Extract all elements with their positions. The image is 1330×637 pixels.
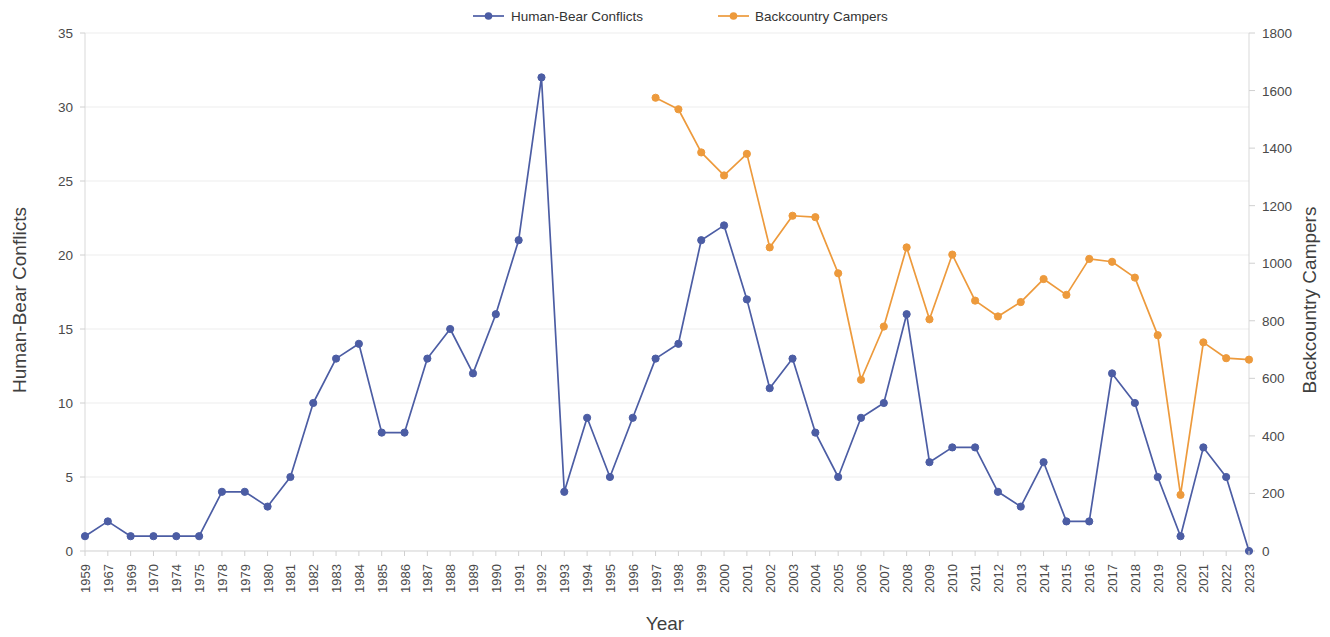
data-point	[310, 399, 317, 406]
x-axis-tick-label: 1981	[283, 564, 298, 593]
data-point	[584, 414, 591, 421]
data-point	[1177, 533, 1184, 540]
data-point	[287, 473, 294, 480]
y-axis-tick-label: 5	[65, 470, 73, 485]
data-point	[835, 270, 842, 277]
data-point	[196, 533, 203, 540]
y-axis-tick-label: 15	[58, 322, 73, 337]
x-axis-title: Year	[646, 613, 685, 634]
x-axis-tick-label: 1998	[671, 564, 686, 593]
data-point	[241, 488, 248, 495]
data-point	[401, 429, 408, 436]
legend-marker	[485, 12, 493, 20]
y2-axis-tick-label: 0	[1262, 544, 1270, 559]
data-point	[972, 297, 979, 304]
data-point	[972, 444, 979, 451]
data-point	[469, 370, 476, 377]
line-chart: 0510152025303502004006008001000120014001…	[0, 0, 1330, 637]
y-axis-tick-label: 35	[58, 26, 73, 41]
x-axis-tick-label: 2006	[854, 564, 869, 593]
y2-axis-tick-label: 1000	[1262, 256, 1292, 271]
y2-axis-tick-label: 1400	[1262, 141, 1292, 156]
data-point	[515, 237, 522, 244]
x-axis-tick-label: 2005	[831, 564, 846, 593]
data-point	[1223, 355, 1230, 362]
data-point	[675, 340, 682, 347]
data-point	[949, 251, 956, 258]
data-point	[652, 94, 659, 101]
series-line-conflicts	[85, 77, 1249, 551]
x-axis-tick-label: 1959	[78, 564, 93, 593]
data-point	[629, 414, 636, 421]
x-axis-tick-label: 2013	[1014, 564, 1029, 593]
x-axis-tick-label: 1978	[215, 564, 230, 593]
x-axis-tick-label: 1999	[694, 564, 709, 593]
data-point	[1086, 518, 1093, 525]
data-point	[1200, 444, 1207, 451]
x-axis-tick-label: 2010	[945, 564, 960, 593]
data-point	[926, 316, 933, 323]
data-point	[903, 311, 910, 318]
x-axis-tick-label: 2017	[1105, 564, 1120, 593]
data-point	[994, 313, 1001, 320]
y-axis-tick-label: 0	[65, 544, 73, 559]
data-point	[104, 518, 111, 525]
data-point	[424, 355, 431, 362]
x-axis-tick-label: 2009	[922, 564, 937, 593]
y2-axis-tick-label: 1600	[1262, 84, 1292, 99]
legend-label: Human-Bear Conflicts	[511, 9, 643, 24]
legend-layer: Human-Bear ConflictsBackcountry Campers	[473, 9, 888, 24]
data-point	[720, 172, 727, 179]
data-point	[743, 296, 750, 303]
x-axis-tick-label: 1983	[329, 564, 344, 593]
x-axis-tick-label: 2019	[1151, 564, 1166, 593]
x-axis-tick-label: 1985	[375, 564, 390, 593]
data-point	[698, 149, 705, 156]
y2-axis-tick-label: 400	[1262, 429, 1285, 444]
legend-label: Backcountry Campers	[755, 9, 888, 24]
x-axis-tick-label: 1991	[512, 564, 527, 593]
data-point	[1040, 275, 1047, 282]
legend-marker	[730, 12, 738, 20]
data-point	[949, 444, 956, 451]
data-point	[675, 106, 682, 113]
data-point	[127, 533, 134, 540]
y2-axis-tick-label: 1200	[1262, 199, 1292, 214]
data-point	[652, 355, 659, 362]
data-point	[561, 488, 568, 495]
x-axis-tick-label: 2014	[1037, 564, 1052, 593]
y2-axis-title: Backcountry Campers	[1299, 207, 1320, 394]
data-point	[355, 340, 362, 347]
x-axis-tick-label: 1969	[124, 564, 139, 593]
x-axis-tick-label: 2016	[1082, 564, 1097, 593]
x-axis-tick-label: 2020	[1174, 564, 1189, 593]
data-point	[880, 399, 887, 406]
data-point	[880, 323, 887, 330]
data-point	[698, 237, 705, 244]
x-axis-tick-label: 1967	[101, 564, 116, 593]
data-point	[1063, 291, 1070, 298]
x-axis-tick-label: 1988	[443, 564, 458, 593]
data-point	[720, 222, 727, 229]
data-point	[812, 429, 819, 436]
x-axis-tick-label: 1974	[169, 564, 184, 593]
x-axis-tick-label: 1979	[238, 564, 253, 593]
x-axis-tick-label: 1996	[626, 564, 641, 593]
data-point	[1017, 298, 1024, 305]
x-axis-tick-label: 2022	[1219, 564, 1234, 593]
x-axis-tick-label: 2018	[1128, 564, 1143, 593]
x-axis-tick-label: 1989	[466, 564, 481, 593]
data-point	[447, 325, 454, 332]
data-point	[1154, 332, 1161, 339]
data-point	[766, 244, 773, 251]
data-point	[857, 376, 864, 383]
xtick-layer: 1959196719691970197419751978197919801981…	[78, 551, 1257, 593]
x-axis-tick-label: 1995	[603, 564, 618, 593]
x-axis-tick-label: 1990	[489, 564, 504, 593]
data-point	[1154, 473, 1161, 480]
data-point	[857, 414, 864, 421]
x-axis-tick-label: 1987	[420, 564, 435, 593]
x-axis-tick-label: 1980	[261, 564, 276, 593]
y2-axis-tick-label: 200	[1262, 486, 1285, 501]
data-point	[789, 212, 796, 219]
